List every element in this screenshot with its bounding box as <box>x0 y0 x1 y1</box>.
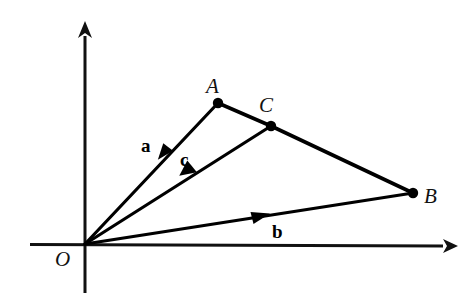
x-axis-line <box>30 245 443 247</box>
edges-group <box>218 103 413 193</box>
vector-b-arrowhead-icon <box>251 212 271 224</box>
point-label-b: B <box>424 184 437 208</box>
vector-diagram-canvas: O A C B a c b <box>0 0 472 306</box>
vector-label-b: b <box>272 221 283 242</box>
vector-label-a: a <box>141 135 151 156</box>
y-axis-arrow-icon <box>78 21 92 38</box>
point-dot-a <box>213 98 223 108</box>
point-label-c: C <box>259 93 274 117</box>
point-dot-c <box>266 121 276 131</box>
segment-c-b <box>271 126 413 193</box>
point-labels-group: O A C B <box>55 74 437 271</box>
vector-b-group <box>85 193 413 244</box>
point-label-a: A <box>204 74 219 98</box>
vector-label-c: c <box>180 149 188 170</box>
axes-group <box>30 21 458 293</box>
x-axis-arrow-icon <box>443 239 458 253</box>
vector-diagram-figure: O A C B a c b <box>0 0 472 306</box>
vector-b-line <box>85 193 413 244</box>
point-dot-b <box>408 188 418 198</box>
point-label-o: O <box>55 247 70 271</box>
